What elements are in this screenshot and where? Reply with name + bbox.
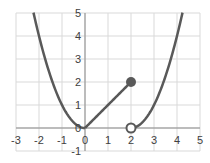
x-tick-label: -1 xyxy=(57,134,67,146)
filled-endpoint-marker xyxy=(126,77,136,87)
x-tick-label: 1 xyxy=(105,134,111,146)
series-right-parabola xyxy=(131,13,183,128)
x-tick-label: 0 xyxy=(82,134,88,146)
y-tick-label: 3 xyxy=(75,53,81,65)
x-tick-label: 5 xyxy=(197,134,203,146)
y-tick-label: 4 xyxy=(75,30,81,42)
x-tick-label: -3 xyxy=(11,134,21,146)
x-tick-label: -2 xyxy=(34,134,44,146)
open-endpoint-marker xyxy=(127,124,136,133)
piecewise-function-chart: -3-2-1012345 -1012345 xyxy=(0,0,210,163)
x-tick-label: 2 xyxy=(128,134,134,146)
x-tick-labels: -3-2-1012345 xyxy=(11,134,203,146)
y-tick-label: -1 xyxy=(71,145,81,157)
x-tick-label: 3 xyxy=(151,134,157,146)
x-tick-label: 4 xyxy=(174,134,180,146)
y-tick-label: 0 xyxy=(75,122,81,134)
y-tick-label: 2 xyxy=(75,76,81,88)
grid-lines xyxy=(16,13,200,151)
y-tick-label: 5 xyxy=(75,7,81,19)
y-tick-label: 1 xyxy=(75,99,81,111)
